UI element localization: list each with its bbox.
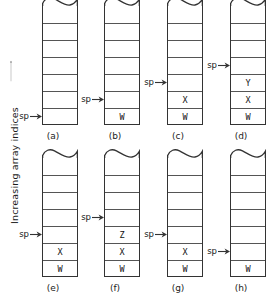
panel-caption: (e): [22, 283, 84, 293]
stack-slot-value: W: [57, 264, 62, 274]
stack-slot: [43, 108, 77, 125]
panel-caption: (h): [210, 283, 272, 293]
stack-pointer-label: sp: [19, 112, 29, 121]
stack-cells: W: [104, 6, 140, 125]
stack-slot: [168, 74, 202, 91]
stack-pointer-sp: sp: [74, 93, 104, 107]
stack-slot: [168, 40, 202, 57]
stack-slot: [168, 175, 202, 192]
stack-pointer-sp: sp: [74, 211, 104, 225]
stack-panel-g: XWsp(g): [147, 152, 209, 304]
stack-pointer-sp: sp: [137, 228, 167, 242]
stack-slot: [231, 243, 265, 260]
stack-slot: W: [168, 108, 202, 125]
right-arrow-icon: [92, 213, 104, 222]
stack-slot: [105, 6, 139, 23]
stack-panel-a: sp(a): [22, 0, 84, 152]
stack-slot-value: Y: [245, 78, 250, 88]
stack-slot: W: [105, 260, 139, 277]
stack-pointer-label: sp: [144, 230, 154, 239]
stack-slot: W: [105, 108, 139, 125]
stack-pointer-label: sp: [19, 230, 29, 239]
stack-slot: Z: [105, 226, 139, 243]
stack-slot: W: [43, 260, 77, 277]
stack-slot-value: W: [182, 264, 187, 274]
stack-pointer-label: sp: [207, 247, 217, 256]
stack-slot: [43, 40, 77, 57]
stack-cells: XW: [167, 158, 203, 277]
stack-slot: [231, 209, 265, 226]
stack-slot-value: X: [182, 247, 187, 257]
stack-slot: [43, 226, 77, 243]
stack-cells: [42, 6, 78, 125]
stack-slot: [105, 57, 139, 74]
stack-slot: [105, 175, 139, 192]
right-arrow-icon: [218, 61, 230, 70]
right-arrow-icon: [30, 230, 42, 239]
stack-pointer-label: sp: [144, 78, 154, 87]
stack-slot: W: [168, 260, 202, 277]
stack-column: ZXW: [104, 158, 140, 278]
stack-slot: [43, 192, 77, 209]
stack-slot-value: X: [119, 247, 124, 257]
stack-slot-value: X: [245, 95, 250, 105]
stack-slot: Y: [231, 74, 265, 91]
stack-slot: [43, 209, 77, 226]
stack-figure: sp(a)Wsp(b)XWsp(c)YXWsp(d) XWsp(e)ZXWsp(…: [22, 0, 273, 305]
stack-slot: [168, 23, 202, 40]
figure-row-bottom: XWsp(e)ZXWsp(f)XWsp(g)Wsp(h): [22, 152, 273, 304]
stack-column: [42, 6, 78, 126]
stack-column: YXW: [230, 6, 266, 126]
stack-column: XW: [167, 158, 203, 278]
stack-cells: ZXW: [104, 158, 140, 277]
increasing-array-indices-axis: Increasing array indices: [0, 0, 22, 305]
stack-slot: [231, 192, 265, 209]
stack-column: XW: [42, 158, 78, 278]
panel-caption: (d): [210, 131, 272, 141]
stack-column: W: [104, 6, 140, 126]
stack-slot-value: W: [119, 264, 124, 274]
stack-pointer-sp: sp: [200, 59, 230, 73]
stack-pointer-sp: sp: [12, 110, 42, 124]
panel-caption: (f): [84, 283, 146, 293]
panel-caption: (g): [147, 283, 209, 293]
stack-slot: [231, 23, 265, 40]
stack-slot: [231, 57, 265, 74]
stack-slot: [43, 158, 77, 175]
stack-slot: [105, 158, 139, 175]
stack-slot: [168, 57, 202, 74]
stack-slot: X: [168, 243, 202, 260]
stack-slot-value: X: [182, 95, 187, 105]
stack-slot: [231, 226, 265, 243]
stack-slot: [105, 23, 139, 40]
stack-pointer-label: sp: [207, 61, 217, 70]
stack-cells: W: [230, 158, 266, 277]
stack-panel-e: XWsp(e): [22, 152, 84, 304]
stack-slot-value: W: [182, 112, 187, 122]
stack-pointer-label: sp: [81, 95, 91, 104]
stack-slot: [43, 57, 77, 74]
right-arrow-icon: [30, 112, 42, 121]
panel-caption: (c): [147, 131, 209, 141]
stack-slot: [43, 6, 77, 23]
stack-column: W: [230, 158, 266, 278]
stack-slot-value: Z: [119, 230, 124, 240]
right-arrow-icon: [155, 230, 167, 239]
stack-column: XW: [167, 6, 203, 126]
stack-slot: [105, 91, 139, 108]
stack-pointer-label: sp: [81, 213, 91, 222]
stack-slot: [105, 209, 139, 226]
stack-slot: [231, 40, 265, 57]
stack-slot: W: [231, 260, 265, 277]
stack-slot-value: W: [245, 112, 250, 122]
stack-slot: [43, 23, 77, 40]
stack-slot: [43, 74, 77, 91]
stack-panel-d: YXWsp(d): [210, 0, 272, 152]
figure-row-top: sp(a)Wsp(b)XWsp(c)YXWsp(d): [22, 0, 273, 152]
stack-slot: [105, 40, 139, 57]
stack-slot: [105, 74, 139, 91]
stack-slot: X: [168, 91, 202, 108]
stack-pointer-sp: sp: [200, 245, 230, 259]
stack-panel-h: Wsp(h): [210, 152, 272, 304]
panel-caption: (a): [22, 131, 84, 141]
